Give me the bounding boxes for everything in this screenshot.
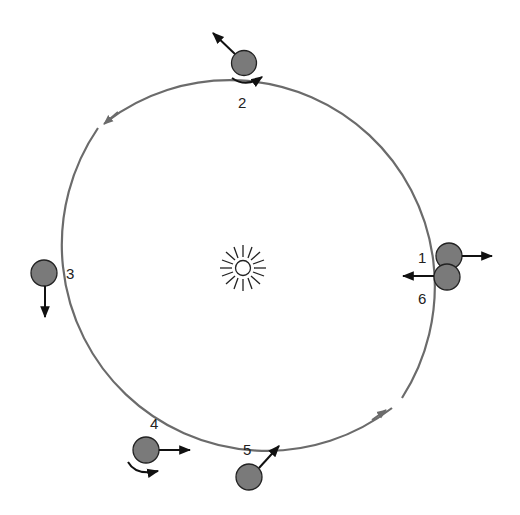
planet-5: 5: [236, 441, 279, 490]
planet-6: 6: [403, 264, 460, 307]
orbit-diagram: 2 3 4 5 1 6: [0, 0, 520, 515]
spin-arrow-icon: [128, 462, 158, 472]
planet-3: 3: [31, 260, 74, 317]
orbit-svg: 2 3 4 5 1 6: [0, 0, 520, 515]
planet-6-label: 6: [418, 290, 426, 307]
planet-5-label: 5: [243, 441, 251, 458]
planet-1-label: 1: [418, 249, 426, 266]
planet-1: 1: [418, 243, 492, 269]
planet-3-label: 3: [66, 265, 74, 282]
planet-4-label: 4: [150, 415, 158, 432]
planet-4: 4: [128, 415, 190, 472]
orbit-direction-arrow-upper-left: [104, 112, 118, 124]
planet-2-label: 2: [238, 94, 246, 111]
sun-icon: [220, 245, 266, 291]
planet-2: 2: [213, 33, 262, 111]
